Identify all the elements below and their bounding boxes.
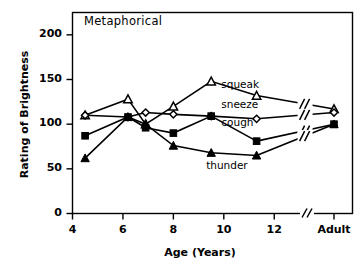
x-tick-label: 6 <box>103 223 143 236</box>
series-label-cough: cough <box>221 116 253 128</box>
x-tick-label: 4 <box>53 223 93 236</box>
x-tick-label: 12 <box>254 223 294 236</box>
y-tick-label: 100 <box>28 116 62 129</box>
series-label-thunder: thunder <box>206 159 248 171</box>
series-label-sneeze: sneeze <box>221 98 258 110</box>
y-tick-label: 150 <box>28 72 62 85</box>
y-tick-label: 200 <box>28 27 62 40</box>
series-label-squeak: squeak <box>221 78 259 90</box>
y-tick-label: 50 <box>28 161 62 174</box>
chart-figure: Metaphorical Rating of Brightness Age (Y… <box>0 0 364 269</box>
x-tick-label: 10 <box>204 223 244 236</box>
x-tick-label-adult: Adult <box>308 223 360 236</box>
x-axis-ticks <box>73 214 335 220</box>
chart-title: Metaphorical <box>84 14 162 28</box>
x-tick-label: 8 <box>153 223 193 236</box>
y-tick-label: 0 <box>28 206 62 219</box>
x-axis-label: Age (Years) <box>110 246 290 259</box>
y-axis-ticks <box>67 35 73 214</box>
